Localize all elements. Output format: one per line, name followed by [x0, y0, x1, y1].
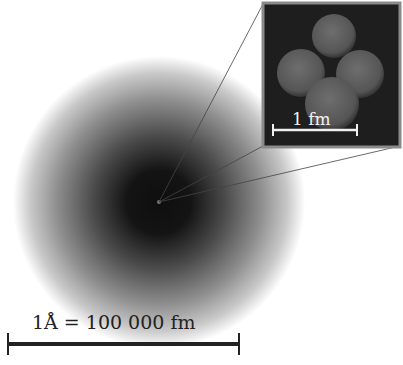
nucleus-inset	[263, 3, 400, 147]
atom-scale-label: 1Å = 100 000 fm	[32, 311, 195, 333]
nucleon	[312, 14, 356, 58]
inset-scale-label: 1 fm	[292, 109, 331, 129]
